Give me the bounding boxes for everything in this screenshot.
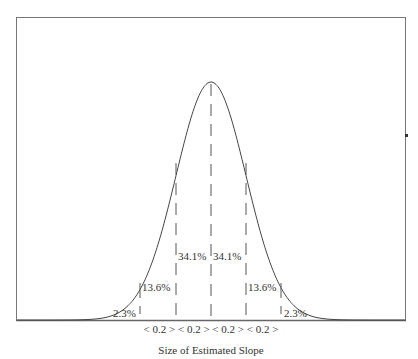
normal-distribution-diagram: 2.3% 13.6% 34.1% 34.1% 13.6% 2.3% < 0.2 … [0,0,418,359]
right-1sd-label: 34.1% [213,250,241,262]
x-axis-label: Size of Estimated Slope [158,344,264,356]
left-tail-label: 2.3% [113,307,136,319]
edge-mark [405,134,408,137]
right-2sd-label: 13.6% [248,281,276,293]
left-2sd-label: 13.6% [142,281,170,293]
left-1sd-label: 34.1% [178,250,206,262]
right-tail-label: 2.3% [284,307,307,319]
interval-labels: < 0.2 > < 0.2 > < 0.2 > < 0.2 > [144,323,279,335]
